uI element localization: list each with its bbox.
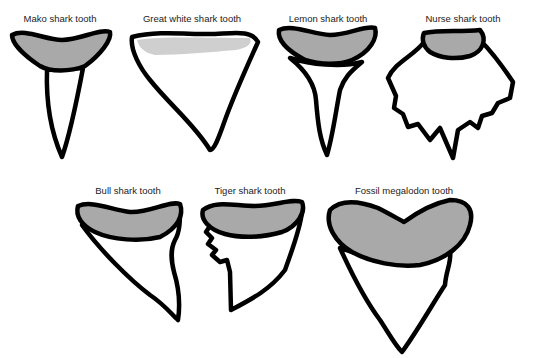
great-white-tooth-drawing — [132, 33, 258, 150]
lemon-tooth-drawing — [279, 27, 376, 155]
tiger-tooth-drawing — [202, 201, 303, 310]
nurse-tooth-drawing — [388, 30, 513, 158]
mako-tooth-drawing — [12, 31, 110, 157]
teeth-illustration — [0, 0, 545, 358]
megalodon-tooth-drawing — [329, 200, 471, 352]
bull-tooth-drawing — [77, 203, 181, 320]
